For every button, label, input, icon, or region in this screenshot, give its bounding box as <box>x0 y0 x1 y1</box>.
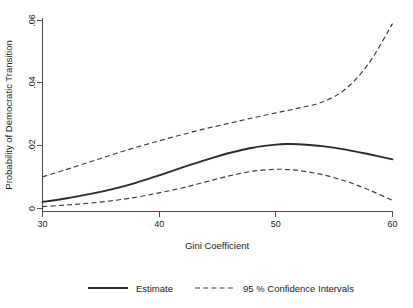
y-tick-label-004: .04 <box>27 76 37 89</box>
estimate-line <box>43 144 393 202</box>
y-axis-title: Probability of Democratic Transition <box>3 40 14 189</box>
x-axis-tick-labels: 30 40 50 60 <box>37 219 397 229</box>
y-axis-tick-labels: 0 .02 .04 .06 <box>27 14 37 211</box>
x-tick-label-60: 60 <box>387 219 397 229</box>
x-axis-ticks <box>43 212 393 218</box>
y-axis-ticks <box>37 21 43 209</box>
legend-label-estimate: Estimate <box>136 283 173 294</box>
upper-confidence-interval-line <box>43 24 393 177</box>
x-axis-title: Gini Coefficient <box>185 240 250 251</box>
x-tick-label-50: 50 <box>271 219 281 229</box>
chart-legend: Estimate 95 % Confidence Intervals <box>88 283 354 294</box>
y-tick-label-002: .02 <box>27 139 37 152</box>
chart-figure: 0 .02 .04 .06 Probability of Democratic … <box>0 0 413 308</box>
chart-canvas: 0 .02 .04 .06 Probability of Democratic … <box>0 0 413 308</box>
legend-label-confidence-intervals: 95 % Confidence Intervals <box>243 283 354 294</box>
y-tick-label-0: 0 <box>27 206 37 211</box>
lower-confidence-interval-line <box>43 169 393 206</box>
y-tick-label-006: .06 <box>27 14 37 27</box>
x-tick-label-30: 30 <box>37 219 47 229</box>
x-tick-label-40: 40 <box>154 219 164 229</box>
